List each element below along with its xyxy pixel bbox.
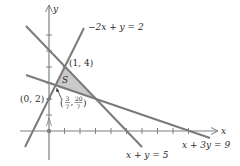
svg-text:3: 3	[66, 95, 70, 102]
feasible-region-diagram: x y −2x + y = 2 x + y = 5 x + 3y = 9 S (…	[0, 0, 240, 166]
region-s-label: S	[62, 75, 68, 85]
point-0-2	[47, 97, 51, 101]
line-x-plus-y-eq-5	[26, 26, 142, 147]
svg-text:7: 7	[77, 103, 81, 110]
label-point-3-7-20-7: ( 3 7 , 20 7 )	[60, 95, 87, 110]
y-axis-label: y	[52, 4, 59, 14]
svg-text:20: 20	[75, 95, 83, 102]
label-point-1-4: (1, 4)	[69, 58, 93, 68]
point-1-4	[63, 66, 66, 69]
line-x-plus-3y-eq-9	[26, 75, 210, 138]
label-point-0-2: (0, 2)	[20, 94, 44, 104]
x-axis-label: x	[221, 126, 226, 136]
svg-text:): )	[83, 98, 87, 108]
label-line-neg2x-plus-y: −2x + y = 2	[88, 22, 144, 32]
label-line-x-plus-y: x + y = 5	[126, 150, 169, 160]
svg-text:(: (	[60, 98, 64, 108]
label-line-x-plus-3y: x + 3y = 9	[182, 140, 230, 150]
svg-text:7: 7	[66, 103, 70, 110]
origin-point	[47, 129, 51, 133]
svg-text:,: ,	[71, 97, 74, 107]
